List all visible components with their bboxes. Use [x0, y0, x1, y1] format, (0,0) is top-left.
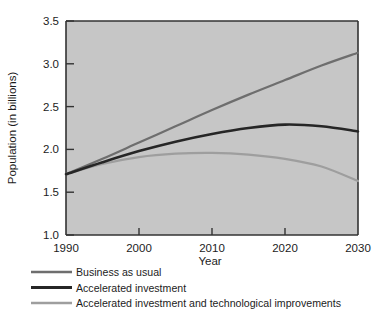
legend-item-label: Accelerated investment and technological…	[76, 297, 341, 309]
x-tick-label: 1990	[53, 242, 79, 254]
y-axis-title: Population (in billions)	[6, 72, 18, 185]
legend-item-label: Business as usual	[76, 266, 161, 278]
x-tick-label: 2020	[272, 242, 298, 254]
y-tick-label: 1.0	[43, 229, 59, 241]
population-projection-chart: 1.01.52.02.53.03.5 19902000201020202030 …	[0, 0, 389, 320]
y-tick-label: 3.0	[43, 58, 59, 70]
legend-item[interactable]: Accelerated investment and technological…	[31, 297, 341, 309]
legend-item-label: Accelerated investment	[76, 282, 186, 294]
y-tick-label: 1.5	[43, 186, 59, 198]
x-tick-label: 2010	[199, 242, 225, 254]
x-axis-title: Year	[198, 255, 221, 267]
y-tick-label: 2.0	[43, 143, 59, 155]
plot-area-background	[66, 21, 358, 235]
chart-figure: 1.01.52.02.53.03.5 19902000201020202030 …	[0, 0, 389, 320]
x-tick-label: 2030	[345, 242, 371, 254]
y-tick-label: 3.5	[43, 15, 59, 27]
y-tick-label: 2.5	[43, 101, 59, 113]
x-tick-label: 2000	[126, 242, 152, 254]
